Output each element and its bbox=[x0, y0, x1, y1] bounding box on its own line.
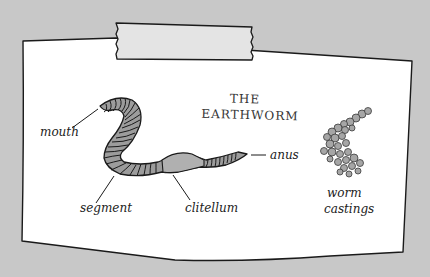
earthworm-diagram: THE EARTHWORM mouth segment clitellum an… bbox=[0, 0, 430, 277]
label-clitellum: clitellum bbox=[185, 201, 238, 215]
title-line-1: THE bbox=[215, 91, 275, 107]
tape-strip bbox=[116, 23, 253, 60]
label-anus: anus bbox=[270, 148, 299, 162]
paper-sheet bbox=[22, 38, 412, 261]
label-castings-line-2: castings bbox=[324, 202, 374, 216]
label-mouth: mouth bbox=[40, 125, 79, 139]
label-segment: segment bbox=[80, 201, 132, 215]
label-castings-line-1: worm bbox=[327, 186, 362, 200]
